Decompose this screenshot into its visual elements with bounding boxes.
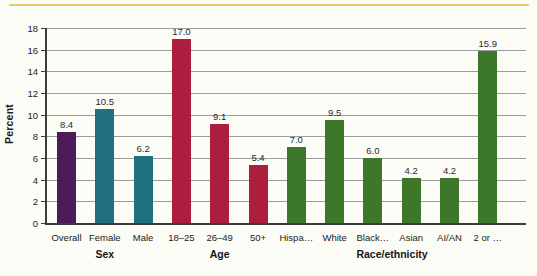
bar-value-label: 9.5 <box>313 107 357 118</box>
y-tick-label: 18 <box>12 23 38 34</box>
gridline <box>45 28 526 29</box>
gridline <box>45 50 526 51</box>
bar <box>287 147 306 223</box>
bar-value-label: 5.4 <box>236 152 280 163</box>
bar <box>57 132 76 223</box>
gridline <box>45 115 526 116</box>
bar-value-label: 10.5 <box>83 96 127 107</box>
y-axis-line <box>45 28 47 224</box>
bar <box>134 156 153 223</box>
bar <box>440 178 459 224</box>
y-tick-label: 12 <box>12 88 38 99</box>
gridline <box>45 71 526 72</box>
bar-value-label: 8.4 <box>45 119 89 130</box>
bar-value-label: 4.2 <box>428 165 472 176</box>
axis-group-label: Race/ethnicity <box>332 249 452 260</box>
bar-value-label: 6.0 <box>351 145 395 156</box>
y-tick-label: 4 <box>12 175 38 186</box>
bar-value-label: 15.9 <box>466 38 510 49</box>
gridline <box>45 158 526 159</box>
bar <box>478 51 497 223</box>
bar <box>95 109 114 223</box>
gridline <box>45 93 526 94</box>
axis-group-label: Age <box>160 249 280 260</box>
y-tick-label: 0 <box>12 218 38 229</box>
bar <box>402 178 421 224</box>
bar-value-label: 17.0 <box>159 26 203 37</box>
x-axis-line <box>45 223 526 225</box>
bar-value-label: 7.0 <box>274 134 318 145</box>
y-tick-label: 14 <box>12 66 38 77</box>
bar <box>249 165 268 224</box>
axis-group-label: Sex <box>45 249 165 260</box>
y-tick-label: 8 <box>12 131 38 142</box>
x-tick-label: 2 or … <box>464 233 512 243</box>
top-divider-rule <box>9 4 529 6</box>
bar <box>210 124 229 223</box>
bar <box>325 120 344 223</box>
chart-page: Percent 0246810121416188.4Overall10.5Fem… <box>0 0 537 276</box>
y-tick-label: 6 <box>12 153 38 164</box>
y-tick-label: 10 <box>12 110 38 121</box>
bar-value-label: 6.2 <box>121 143 165 154</box>
bar-value-label: 9.1 <box>198 111 242 122</box>
bar <box>172 39 191 223</box>
bar <box>363 158 382 223</box>
y-tick-label: 16 <box>12 45 38 56</box>
y-tick-label: 2 <box>12 196 38 207</box>
y-axis-title: Percent <box>3 94 15 154</box>
